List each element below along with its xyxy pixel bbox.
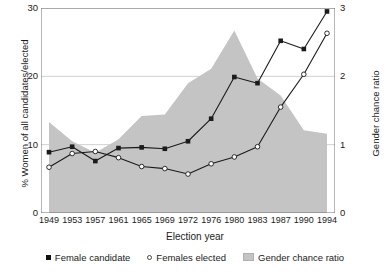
y-axis-right-title: Gender chance ratio — [370, 24, 381, 204]
marker-female-candidate — [116, 146, 121, 151]
marker-female-candidate — [93, 159, 98, 164]
marker-female-candidate — [255, 81, 260, 86]
legend-label: Female candidate — [55, 252, 131, 263]
chart-legend: Female candidateFemales electedGender ch… — [0, 249, 390, 265]
legend-item-females-elected: Females elected — [147, 252, 226, 263]
figure-caption-fragment — [24, 268, 390, 276]
legend-label: Females elected — [156, 252, 226, 263]
marker-female-candidate — [302, 47, 307, 52]
marker-females-elected — [116, 155, 121, 160]
x-axis-title: Election year — [0, 231, 390, 242]
legend-filled-square-icon — [46, 255, 51, 260]
marker-female-candidate — [186, 139, 191, 144]
marker-females-elected — [186, 172, 191, 177]
marker-female-candidate — [70, 144, 75, 149]
marker-females-elected — [325, 31, 330, 36]
marker-females-elected — [278, 105, 283, 110]
x-axis-ticks: 1949195319571961196519691972197619801983… — [0, 215, 390, 229]
marker-females-elected — [302, 72, 307, 77]
y-tick-left-20: 20 — [14, 70, 38, 81]
marker-female-candidate — [232, 75, 237, 80]
marker-females-elected — [209, 162, 214, 167]
marker-females-elected — [70, 151, 75, 156]
y-tick-right-3: 3 — [340, 2, 360, 13]
legend-label: Gender chance ratio — [258, 252, 344, 263]
marker-female-candidate — [163, 146, 168, 151]
marker-female-candidate — [278, 39, 283, 44]
y-tick-left-10: 10 — [14, 139, 38, 150]
legend-item-female-candidate: Female candidate — [46, 252, 131, 263]
legend-item-gender-chance-ratio: Gender chance ratio — [243, 252, 344, 263]
area-gender-chance-ratio — [49, 31, 327, 213]
y-tick-left-30: 30 — [14, 2, 38, 13]
plot-area — [41, 8, 335, 213]
legend-gray-swatch-icon — [243, 253, 254, 261]
marker-females-elected — [232, 155, 237, 160]
marker-females-elected — [139, 164, 144, 169]
marker-female-candidate — [209, 116, 214, 121]
marker-females-elected — [47, 165, 52, 170]
chart-canvas — [41, 8, 335, 213]
chart-figure: % Women of all candidates/elected Gender… — [0, 0, 390, 276]
y-tick-right-2: 2 — [340, 70, 360, 81]
y-tick-right-1: 1 — [340, 139, 360, 150]
marker-females-elected — [255, 144, 260, 149]
marker-female-candidate — [139, 145, 144, 150]
marker-females-elected — [163, 166, 168, 171]
x-tick-1994: 1994 — [312, 215, 342, 225]
marker-female-candidate — [47, 150, 52, 155]
marker-females-elected — [93, 149, 98, 154]
marker-female-candidate — [325, 9, 330, 14]
legend-open-circle-icon — [147, 255, 152, 260]
